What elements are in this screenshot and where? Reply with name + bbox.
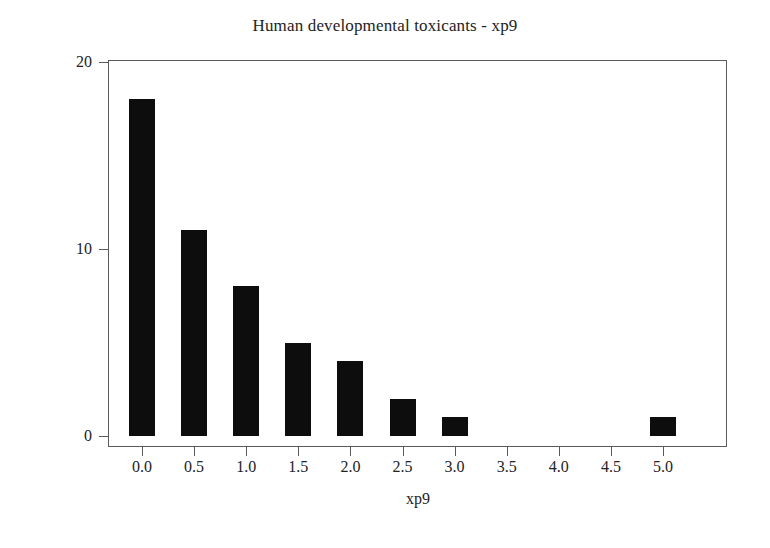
x-tick-label-3.0: 3.0 — [425, 458, 485, 476]
x-tick-label-1.0: 1.0 — [216, 458, 276, 476]
x-tick-label-4.0: 4.0 — [529, 458, 589, 476]
x-tick-label-2.5: 2.5 — [373, 458, 433, 476]
x-tick-label-4.5: 4.5 — [581, 458, 641, 476]
x-tick-label-1.5: 1.5 — [268, 458, 328, 476]
x-axis-title: xp9 — [108, 490, 728, 508]
y-tick-label-0: 0 — [32, 427, 92, 445]
x-tick-4.5 — [611, 447, 612, 456]
x-tick-3.5 — [507, 447, 508, 456]
x-tick-5.0 — [663, 447, 664, 456]
y-tick-10 — [99, 249, 108, 250]
chart-figure: Human developmental toxicants - xp9 Freq… — [0, 0, 770, 548]
x-tick-2.0 — [350, 447, 351, 456]
x-tick-label-0.0: 0.0 — [112, 458, 172, 476]
plot-area-frame — [108, 60, 727, 447]
x-tick-label-5.0: 5.0 — [633, 458, 693, 476]
y-tick-label-20: 20 — [32, 53, 92, 71]
y-tick-label-10: 10 — [32, 240, 92, 258]
x-tick-2.5 — [403, 447, 404, 456]
x-tick-label-0.5: 0.5 — [164, 458, 224, 476]
x-tick-label-2.0: 2.0 — [320, 458, 380, 476]
x-tick-3.0 — [455, 447, 456, 456]
x-tick-label-3.5: 3.5 — [477, 458, 537, 476]
y-tick-0 — [99, 436, 108, 437]
y-tick-20 — [99, 62, 108, 63]
x-tick-4.0 — [559, 447, 560, 456]
x-tick-0.5 — [194, 447, 195, 456]
chart-title: Human developmental toxicants - xp9 — [0, 16, 770, 36]
x-tick-1.5 — [298, 447, 299, 456]
x-tick-0.0 — [142, 447, 143, 456]
x-tick-1.0 — [246, 447, 247, 456]
